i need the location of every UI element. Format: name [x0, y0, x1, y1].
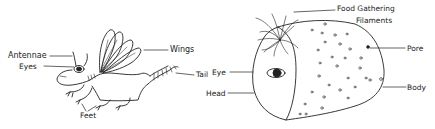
label-wings: Wings [170, 46, 194, 54]
label-antennae: Antennae [8, 52, 47, 60]
diagram: Antennae Eyes Wings Tail Feet Food Gathe… [0, 0, 435, 129]
label-eyes: Eyes [19, 63, 37, 71]
label-filaments: Filaments [356, 17, 392, 25]
label-eye: Eye [212, 69, 226, 77]
dragonfly-lizard-drawing [44, 30, 194, 111]
label-food-gathering: Food Gathering [337, 5, 395, 13]
label-head: Head [206, 90, 226, 98]
label-pore: Pore [407, 45, 423, 53]
filament-blob-drawing [228, 10, 406, 120]
label-feet: Feet [80, 112, 96, 120]
label-tail: Tail [196, 71, 208, 79]
label-body: Body [407, 84, 426, 92]
